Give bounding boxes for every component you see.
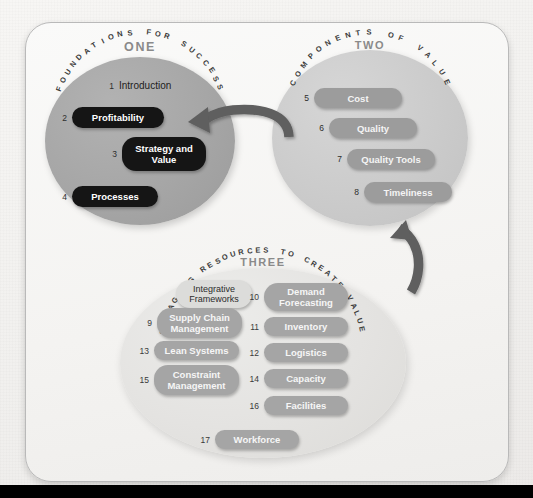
arrow-two-to-one [188,107,289,137]
arrow-layer [0,0,533,498]
diagram-stage: FOUNDATIONS FOR SUCCESS ONE 1 Introducti… [0,0,533,498]
arrow-three-to-two [390,220,419,292]
bottom-black-bar [0,485,533,498]
